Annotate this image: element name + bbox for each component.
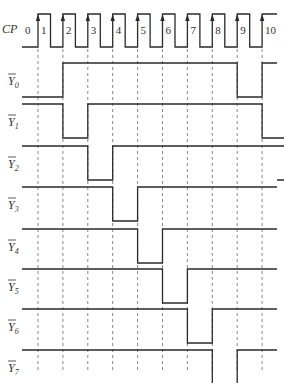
grid-lines: [38, 49, 262, 370]
signal-waveform: [22, 146, 284, 180]
signal-waveform: [22, 187, 277, 221]
signal-y3: Y3: [8, 187, 277, 221]
signal-label: Y1: [8, 115, 19, 131]
pulse-number: 3: [91, 24, 97, 36]
rising-edge-arrow-icon: [260, 14, 264, 21]
signal-label-subscript: 2: [15, 164, 19, 173]
pulse-number: 4: [116, 24, 122, 36]
clock-label: CP: [2, 22, 18, 36]
rising-edge-arrow-icon: [210, 14, 214, 21]
signal-y0: Y0: [8, 63, 277, 97]
rising-edge-arrow-icon: [135, 14, 139, 21]
signal-label-subscript: 0: [15, 81, 19, 90]
rising-edge-arrow-icon: [61, 14, 65, 21]
pulse-number: 8: [215, 24, 221, 36]
output-signals: Y0Y1Y2Y3Y4Y5Y6Y7: [8, 63, 284, 383]
signal-label: Y3: [8, 198, 19, 214]
pulse-number: 10: [265, 24, 277, 36]
signal-y2: Y2: [8, 146, 284, 180]
rising-edge-arrow-icon: [111, 14, 115, 21]
signal-waveform: [22, 269, 277, 303]
rising-edge-arrow-icon: [235, 14, 239, 21]
signal-waveform: [22, 309, 277, 343]
pulse-number: 5: [141, 24, 147, 36]
signal-waveform: [22, 350, 277, 383]
signal-y7: Y7: [8, 350, 277, 383]
rising-edge-arrow-icon: [86, 14, 90, 21]
pulse-number: 6: [166, 24, 172, 36]
signal-waveform: [22, 63, 277, 97]
signal-label: Y2: [8, 157, 19, 173]
signal-label-subscript: 7: [15, 368, 20, 377]
signal-y4: Y4: [8, 229, 277, 263]
pulse-number: 0: [25, 24, 31, 36]
pulse-number: 2: [66, 24, 72, 36]
pulse-number: 7: [190, 24, 196, 36]
signal-label: Y7: [8, 361, 20, 377]
pulse-number: 9: [240, 24, 246, 36]
rising-edge-arrow-icon: [185, 14, 189, 21]
signal-label-subscript: 1: [15, 122, 19, 131]
signal-label-subscript: 4: [15, 247, 19, 256]
rising-edge-arrow-icon: [36, 14, 40, 21]
signal-label-subscript: 5: [15, 287, 19, 296]
signal-waveform: [22, 104, 284, 138]
signal-waveform: [22, 229, 277, 263]
signal-label-subscript: 3: [14, 205, 19, 214]
signal-label: Y4: [8, 240, 19, 256]
timing-diagram: CP 012345678910 Y0Y1Y2Y3Y4Y5Y6Y7: [0, 0, 284, 383]
clock-signal: CP 012345678910: [2, 14, 277, 47]
signal-y5: Y5: [8, 269, 277, 303]
signal-label-subscript: 6: [15, 327, 19, 336]
signal-label: Y6: [8, 320, 19, 336]
rising-edge-arrow-icon: [160, 14, 164, 21]
pulse-number: 1: [41, 24, 47, 36]
signal-label: Y5: [8, 280, 19, 296]
signal-label: Y0: [8, 74, 19, 90]
signal-y6: Y6: [8, 309, 277, 343]
signal-y1: Y1: [8, 104, 284, 138]
